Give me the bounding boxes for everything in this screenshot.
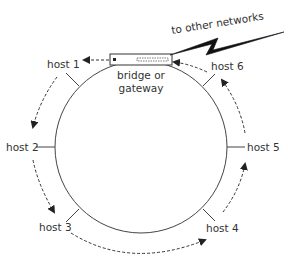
gateway-label-line1: bridge or — [117, 69, 165, 81]
host3-label: host 3 — [39, 221, 72, 233]
flow-arrow-host2-to-host3 — [33, 160, 54, 212]
flow-arrow-host4-to-host5 — [223, 164, 245, 212]
flow-arrow-host6-to-gateway — [174, 62, 207, 72]
host1-connector — [66, 73, 79, 86]
host4-connector — [203, 209, 215, 221]
flow-arrow-host1-to-host2 — [33, 77, 57, 127]
external-networks-label: to other networks — [170, 10, 264, 36]
flow-arrow-host5-to-host6 — [222, 80, 245, 133]
host5-label: host 5 — [247, 141, 280, 153]
host4-label: host 4 — [206, 222, 239, 234]
flow-arrow-host3-to-host4 — [71, 233, 205, 253]
host6-label: host 6 — [211, 60, 244, 72]
host1-label: host 1 — [47, 58, 80, 70]
host6-connector — [203, 74, 215, 86]
wan-link-icon — [170, 32, 284, 55]
ring-network-diagram: to other networks bridge or gateway host… — [0, 0, 288, 261]
gateway-label-line2: gateway — [119, 82, 164, 94]
gateway-device-icon — [110, 54, 172, 65]
host2-label: host 2 — [6, 141, 39, 153]
